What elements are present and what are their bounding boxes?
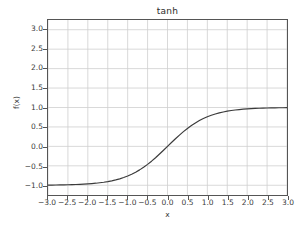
y-tick-mark: [43, 167, 47, 168]
y-tick-mark: [43, 29, 47, 30]
y-tick-label: 2.0: [3, 64, 43, 72]
plot-area: [47, 19, 288, 196]
y-tick-mark: [43, 88, 47, 89]
y-tick-label: −1.0: [3, 182, 43, 190]
x-tick-mark: [228, 196, 229, 200]
chart-title: tanh: [47, 5, 288, 17]
y-tick-label: 0.5: [3, 123, 43, 131]
y-tick-mark: [43, 68, 47, 69]
x-tick-mark: [288, 196, 289, 200]
x-tick-mark: [87, 196, 88, 200]
x-tick-mark: [47, 196, 48, 200]
x-tick-mark: [127, 196, 128, 200]
x-tick-mark: [168, 196, 169, 200]
x-tick-mark: [107, 196, 108, 200]
x-tick-label: 3.0: [273, 199, 303, 207]
tanh-curve: [48, 20, 287, 195]
y-tick-mark: [43, 186, 47, 187]
y-tick-mark: [43, 147, 47, 148]
y-tick-label: 2.5: [3, 45, 43, 53]
x-tick-mark: [67, 196, 68, 200]
y-tick-label: 3.0: [3, 25, 43, 33]
x-axis-label: x: [47, 210, 288, 219]
y-tick-label: 1.5: [3, 84, 43, 92]
x-tick-mark: [208, 196, 209, 200]
y-tick-mark: [43, 127, 47, 128]
y-tick-mark: [43, 108, 47, 109]
x-tick-mark: [248, 196, 249, 200]
x-tick-mark: [268, 196, 269, 200]
chart-figure: tanh f(x) x 3.02.52.01.51.00.50.0−0.5−1.…: [0, 0, 303, 233]
x-tick-mark: [188, 196, 189, 200]
y-tick-label: 0.0: [3, 143, 43, 151]
x-tick-mark: [147, 196, 148, 200]
y-tick-mark: [43, 49, 47, 50]
y-tick-label: 1.0: [3, 104, 43, 112]
y-tick-label: −0.5: [3, 163, 43, 171]
